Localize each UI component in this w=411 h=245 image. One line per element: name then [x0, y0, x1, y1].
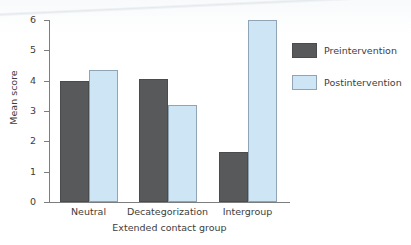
bar-decategorization-postintervention — [168, 105, 197, 202]
bar-chart-figure: 0123456 NeutralDecategorizationIntergrou… — [0, 0, 411, 245]
bar-neutral-preintervention — [60, 81, 89, 202]
y-tick-label: 5 — [4, 45, 36, 55]
bar-intergroup-postintervention — [248, 20, 277, 202]
y-tick-mark — [44, 202, 50, 203]
y-tick-label: 6 — [4, 15, 36, 25]
legend-item-preintervention: Preintervention — [292, 43, 410, 58]
x-axis-line — [49, 202, 290, 203]
chart-legend: Preintervention Postintervention — [292, 43, 410, 107]
y-axis-title: Mean score — [8, 63, 19, 133]
legend-item-postintervention: Postintervention — [292, 75, 410, 90]
bar-decategorization-preintervention — [139, 79, 168, 202]
preintervention-swatch-icon — [292, 43, 317, 58]
plot-area — [49, 20, 290, 202]
y-tick-label: 1 — [4, 167, 36, 177]
scan-artifact-streak — [0, 0, 411, 18]
postintervention-swatch-icon — [292, 75, 317, 90]
legend-label-postintervention: Postintervention — [324, 77, 402, 88]
bar-intergroup-preintervention — [219, 152, 248, 202]
legend-label-preintervention: Preintervention — [324, 45, 397, 56]
bar-neutral-postintervention — [89, 70, 118, 202]
x-tick-label-intergroup: Intergroup — [188, 206, 308, 217]
y-tick-label: 2 — [4, 136, 36, 146]
x-axis-title: Extended contact group — [49, 222, 290, 233]
